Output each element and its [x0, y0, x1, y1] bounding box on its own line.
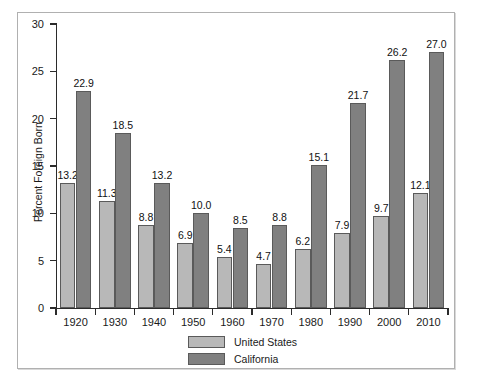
bar-united-states-2000	[373, 216, 389, 308]
bar-value-label: 13.2	[57, 169, 77, 181]
x-tick-label: 1970	[250, 316, 294, 328]
bar-value-label: 27.0	[426, 38, 446, 50]
x-tick-mark	[291, 308, 292, 315]
bar-value-label: 21.7	[348, 89, 368, 101]
x-tick-mark	[55, 308, 56, 315]
x-tick-label: 1960	[210, 316, 254, 328]
bar-united-states-1950	[177, 243, 193, 308]
y-tick-mark	[50, 260, 57, 261]
bar-california-1930	[115, 133, 131, 308]
bar-value-label: 10.0	[191, 199, 211, 211]
plot-area: Percent Foreign Born 051015202530 192019…	[0, 0, 478, 383]
bar-value-label: 7.9	[335, 219, 350, 231]
x-tick-mark	[330, 308, 331, 315]
bar-value-label: 4.7	[256, 250, 271, 262]
x-tick-mark	[447, 308, 448, 315]
x-tick-mark	[134, 308, 135, 315]
y-tick-mark	[50, 23, 57, 24]
bar-value-label: 12.1	[410, 179, 430, 191]
legend-item: California	[188, 351, 297, 366]
bar-value-label: 8.8	[139, 211, 154, 223]
legend-item: United States	[188, 334, 297, 349]
y-tick-label: 5	[22, 255, 44, 267]
bar-united-states-2010	[413, 193, 429, 308]
legend-swatch	[188, 353, 225, 365]
legend-label: United States	[234, 336, 297, 348]
y-tick-mark	[50, 71, 57, 72]
y-tick-label: 30	[22, 18, 44, 30]
bar-california-1940	[154, 183, 170, 308]
bar-value-label: 9.7	[374, 202, 389, 214]
bar-value-label: 5.4	[217, 243, 232, 255]
bar-value-label: 18.5	[113, 119, 133, 131]
x-tick-mark	[369, 308, 370, 315]
y-tick-label: 25	[22, 65, 44, 77]
bar-united-states-1990	[334, 233, 350, 308]
bar-california-1970	[272, 225, 288, 308]
bar-united-states-1940	[138, 225, 154, 308]
x-tick-label: 1990	[328, 316, 372, 328]
x-tick-mark	[251, 308, 252, 315]
y-tick-mark	[50, 118, 57, 119]
y-axis-title: Percent Foreign Born	[32, 72, 44, 272]
y-tick-label: 20	[22, 113, 44, 125]
legend-swatch	[188, 336, 225, 348]
x-tick-mark	[173, 308, 174, 315]
x-tick-label: 2010	[406, 316, 450, 328]
bar-california-1980	[311, 165, 327, 308]
bar-value-label: 22.9	[73, 77, 93, 89]
bar-california-1920	[76, 91, 92, 308]
x-tick-label: 2000	[367, 316, 411, 328]
bar-united-states-1980	[295, 249, 311, 308]
bar-value-label: 26.2	[387, 46, 407, 58]
chart-figure: Percent Foreign Born 051015202530 192019…	[0, 0, 478, 383]
x-tick-mark	[408, 308, 409, 315]
x-tick-mark	[95, 308, 96, 315]
x-tick-label: 1940	[132, 316, 176, 328]
bar-united-states-1960	[217, 257, 233, 308]
x-tick-label: 1920	[54, 316, 98, 328]
bar-california-1960	[233, 228, 249, 308]
x-tick-mark	[212, 308, 213, 315]
bar-united-states-1930	[99, 201, 115, 308]
y-tick-label: 15	[22, 160, 44, 172]
bar-value-label: 6.2	[295, 235, 310, 247]
bar-california-1950	[193, 213, 209, 308]
x-tick-label: 1980	[289, 316, 333, 328]
bar-value-label: 8.8	[272, 211, 287, 223]
legend-label: California	[234, 353, 278, 365]
bar-california-1990	[350, 103, 366, 308]
bar-value-label: 11.3	[97, 187, 117, 199]
bar-united-states-1970	[256, 264, 272, 308]
bar-california-2010	[429, 52, 445, 308]
y-tick-label: 10	[22, 207, 44, 219]
x-tick-label: 1950	[171, 316, 215, 328]
y-tick-mark	[50, 213, 57, 214]
bar-value-label: 13.2	[152, 169, 172, 181]
bar-value-label: 6.9	[178, 229, 193, 241]
bar-value-label: 8.5	[233, 214, 248, 226]
x-tick-label: 1930	[93, 316, 137, 328]
y-tick-mark	[50, 165, 57, 166]
bar-united-states-1920	[60, 183, 76, 308]
bar-value-label: 15.1	[309, 151, 329, 163]
bar-california-2000	[389, 60, 405, 308]
chart-legend: United StatesCalifornia	[188, 334, 297, 368]
y-tick-label: 0	[22, 302, 44, 314]
